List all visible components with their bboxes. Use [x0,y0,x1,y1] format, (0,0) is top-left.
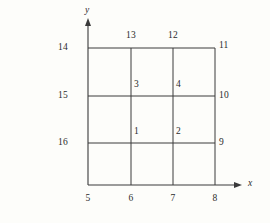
node-label-12: 12 [168,31,178,41]
node-label-14: 14 [58,43,68,53]
node-label-13: 13 [126,31,136,41]
node-label-10: 10 [219,91,229,101]
node-label-16: 16 [58,138,68,148]
node-label-15: 15 [58,91,68,101]
y-axis-label: y [85,6,89,16]
y-axis [85,18,91,185]
node-label-9: 9 [219,138,224,148]
node-label-1: 1 [134,127,139,137]
node-label-3: 3 [134,80,139,90]
x-tick-label-8: 8 [213,194,218,204]
x-axis [88,182,242,188]
node-label-4: 4 [176,80,181,90]
node-label-11: 11 [219,41,229,51]
x-tick-label-6: 6 [129,194,134,204]
mesh-horizontal-lines [88,48,215,143]
x-tick-label-7: 7 [171,194,176,204]
x-axis-label: x [248,179,252,189]
x-tick-label-5: 5 [86,194,91,204]
grid-diagram: y x 14 15 16 13 12 11 10 9 1 2 3 4 5 6 7… [0,0,270,223]
mesh-vertical-lines [131,48,215,185]
node-label-2: 2 [176,127,181,137]
